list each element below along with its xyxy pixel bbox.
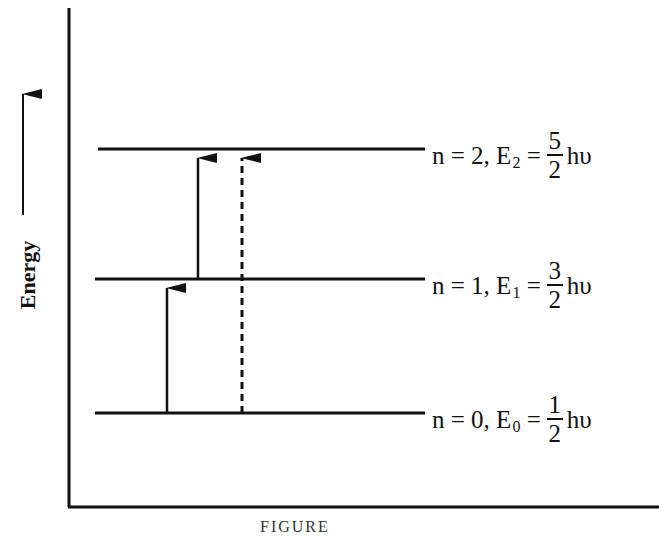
equals-sign: = bbox=[527, 273, 541, 298]
energy-symbol: E bbox=[496, 407, 511, 432]
numerator: 1 bbox=[549, 392, 562, 417]
level-label-n2: n = 2, E2 = 5 2 hυ bbox=[432, 128, 592, 182]
n-value: n = 1, bbox=[432, 273, 490, 298]
denominator: 2 bbox=[549, 421, 562, 446]
level-label-n0: n = 0, E0 = 1 2 hυ bbox=[432, 392, 592, 446]
fraction: 1 2 bbox=[547, 392, 563, 446]
energy-subscript: 0 bbox=[512, 419, 520, 435]
unit: hυ bbox=[567, 273, 592, 298]
denominator: 2 bbox=[549, 157, 562, 182]
energy-symbol: E bbox=[496, 143, 511, 168]
n-value: n = 0, bbox=[432, 407, 490, 432]
n-value: n = 2, bbox=[432, 143, 490, 168]
energy-subscript: 2 bbox=[512, 155, 520, 171]
numerator: 5 bbox=[549, 128, 562, 153]
equals-sign: = bbox=[527, 407, 541, 432]
equals-sign: = bbox=[527, 143, 541, 168]
energy-symbol: E bbox=[496, 273, 511, 298]
fraction: 3 2 bbox=[547, 258, 563, 312]
y-axis-label: Energy bbox=[15, 235, 41, 315]
unit: hυ bbox=[567, 143, 592, 168]
unit: hυ bbox=[567, 407, 592, 432]
fraction: 5 2 bbox=[547, 128, 563, 182]
figure-caption: FIGURE bbox=[260, 518, 330, 536]
denominator: 2 bbox=[549, 287, 562, 312]
numerator: 3 bbox=[549, 258, 562, 283]
energy-subscript: 1 bbox=[512, 285, 520, 301]
level-label-n1: n = 1, E1 = 3 2 hυ bbox=[432, 258, 592, 312]
